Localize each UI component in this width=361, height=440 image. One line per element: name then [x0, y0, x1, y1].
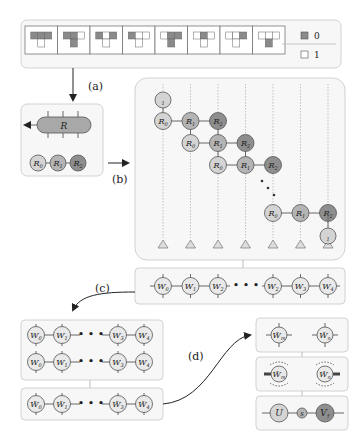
svg-text:1: 1 [326, 236, 329, 242]
row3-node-W̃1: W̃1 [54, 396, 71, 413]
svg-text:• • •: • • • [78, 355, 104, 368]
row2-node-W4: W4 [136, 354, 153, 371]
mps-node-R0: R0 [182, 135, 199, 152]
svg-text:• • •: • • • [233, 279, 259, 292]
row1-node-W1: W1 [54, 327, 71, 344]
diagram-canvas: 0 1 (a) R R0R1R2 (b) 1R0R1R2R0R1R2R0R1R2… [0, 0, 361, 440]
row1-node-W4: W4 [136, 327, 153, 344]
s-node: s [297, 408, 307, 418]
pair-node-0: W̃m [271, 327, 287, 343]
tiles-panel: 0 1 [21, 20, 341, 68]
mpo-row-panel: • • •W0W1W2W2W3W4 [135, 268, 345, 304]
row2-node-W1: W1 [54, 354, 71, 371]
chain-node-R2: R2 [70, 155, 86, 171]
panel-a: R R0R1R2 [21, 104, 103, 176]
mps-node-R2: R2 [265, 157, 282, 174]
U-node: U [270, 404, 288, 422]
legend-light-swatch [301, 51, 308, 58]
mps-node-R1: R1 [210, 135, 227, 152]
grouped-node-1: W̃n [317, 366, 333, 382]
mps-node-R0: R0 [265, 205, 282, 222]
mps-node-R2: R2 [210, 113, 227, 130]
panel-b: 1R0R1R2R0R1R2R0R1R2R0R1R21 [135, 78, 345, 260]
arrow-d [163, 335, 250, 404]
mps-node-R0: R0 [210, 157, 227, 174]
legend-dark-swatch [301, 32, 308, 39]
panel-d: W̃mW̃nW̃mW̃nUsV† [256, 318, 348, 430]
row3-node-W̃3: W̃3 [110, 396, 127, 413]
svg-text:1: 1 [161, 100, 164, 106]
row2-node-W0: W0 [28, 354, 45, 371]
mpo-node-W2: W2 [210, 278, 227, 295]
mpo-node-W4: W4 [320, 278, 337, 295]
row2-node-W3: W3 [110, 354, 127, 371]
start-vector: 1 [155, 92, 171, 108]
svg-text:U: U [275, 408, 283, 418]
row1-node-W0: W0 [28, 327, 45, 344]
mps-node-R2: R2 [237, 135, 254, 152]
step-c-label: (c) [95, 282, 110, 295]
row3-node-W̃0: W̃0 [28, 396, 45, 413]
mps-node-R1: R1 [237, 157, 254, 174]
step-a-label: (a) [88, 80, 103, 93]
svg-text:s: s [300, 410, 304, 418]
row1-node-W3: W3 [110, 327, 127, 344]
mpo-node-W0: W0 [155, 278, 172, 295]
step-b-label: (b) [112, 173, 128, 186]
end-vector: 1 [320, 228, 336, 244]
legend-dark-label: 0 [314, 31, 320, 41]
tile-strip [25, 26, 285, 54]
chain-node-R0: R0 [30, 155, 46, 171]
Vdag-node: V† [316, 404, 334, 422]
legend-light-label: 1 [314, 50, 320, 60]
pair-node-1: W̃n [317, 327, 333, 343]
mps-node-R1: R1 [292, 205, 309, 222]
svg-text:• • •: • • • [78, 397, 104, 410]
svg-text:R: R [60, 121, 68, 131]
row3-node-W̃4: W̃4 [136, 396, 153, 413]
step-d-label: (d) [188, 350, 204, 363]
mpo-node-W2: W2 [265, 278, 282, 295]
grouped-node-0: W̃m [271, 366, 287, 382]
chain-node-R1: R1 [50, 155, 66, 171]
mps-node-R0: R0 [155, 113, 172, 130]
panel-c: • • •W0W1W3W4• • •W0W1W3W4 • • •W̃0W̃1W̃… [21, 320, 163, 420]
mps-node-R1: R1 [182, 113, 199, 130]
svg-text:• • •: • • • [78, 328, 104, 341]
mpo-node-W1: W1 [182, 278, 199, 295]
mpo-node-W3: W3 [292, 278, 309, 295]
